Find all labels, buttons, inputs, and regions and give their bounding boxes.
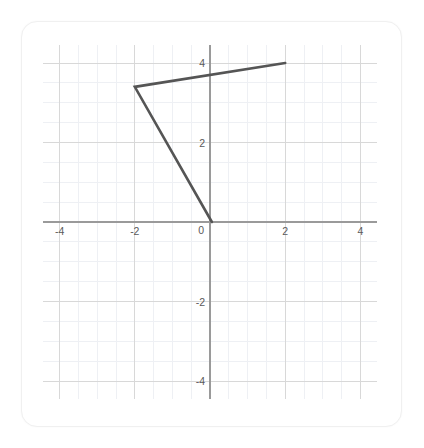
x-tick-label-neg4: -4 <box>55 225 64 237</box>
x-tick-label-2: 2 <box>282 225 288 237</box>
x-tick-label-0: 0 <box>198 224 204 236</box>
axis-lines <box>43 45 378 399</box>
coordinate-plane-svg: -4-2024-4-224 <box>0 0 424 448</box>
y-tick-label-neg4: -4 <box>196 375 205 387</box>
y-tick-label-neg2: -2 <box>196 296 205 308</box>
y-tick-label-2: 2 <box>199 137 205 149</box>
graph-screenshot: -4-2024-4-224 <box>0 0 424 448</box>
plot-area: -4-2024-4-224 <box>0 0 424 448</box>
x-tick-label-neg2: -2 <box>130 225 139 237</box>
y-tick-label-4: 4 <box>199 57 205 69</box>
x-tick-label-4: 4 <box>357 225 363 237</box>
